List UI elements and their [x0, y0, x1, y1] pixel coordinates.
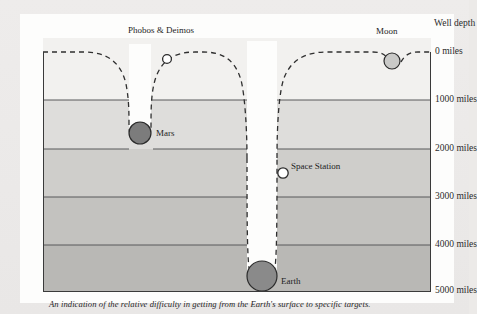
label-earth: Earth	[281, 277, 301, 286]
marker-space-station[interactable]	[278, 168, 288, 178]
tick-label-5000: 5000 miles	[435, 286, 477, 296]
label-mars: Mars	[156, 129, 175, 138]
gravity-well-chart: Phobos & Deimos Mars Moon Space Station …	[43, 38, 431, 292]
marker-mars[interactable]	[129, 122, 151, 144]
band-1000-2000	[43, 100, 431, 149]
marker-earth[interactable]	[247, 261, 277, 291]
figure-caption: An indication of the relative difficulty…	[49, 299, 459, 309]
tick-label-4000: 4000 miles	[435, 240, 477, 250]
band-3000-4000	[43, 197, 431, 245]
earth-well-shaft	[247, 41, 277, 284]
label-moon: Moon	[376, 27, 398, 36]
well-depth-axis-title: Well depth	[434, 18, 475, 28]
label-space-station: Space Station	[291, 162, 340, 171]
figure-panel: Well depth	[20, 14, 454, 303]
band-2000-3000	[43, 149, 431, 197]
band-4000-5000	[43, 245, 431, 292]
label-phobos-deimos: Phobos & Deimos	[128, 26, 194, 35]
tick-label-3000: 3000 miles	[435, 192, 477, 202]
tick-label-0: 0 miles	[435, 47, 463, 57]
cut-off-headline-ghost: · · · · ·	[0, 0, 469, 12]
marker-moon[interactable]	[384, 53, 400, 69]
chart-svg	[43, 38, 431, 292]
tick-label-1000: 1000 miles	[435, 95, 477, 105]
marker-phobos-deimos[interactable]	[163, 55, 172, 64]
tick-label-2000: 2000 miles	[435, 144, 477, 154]
